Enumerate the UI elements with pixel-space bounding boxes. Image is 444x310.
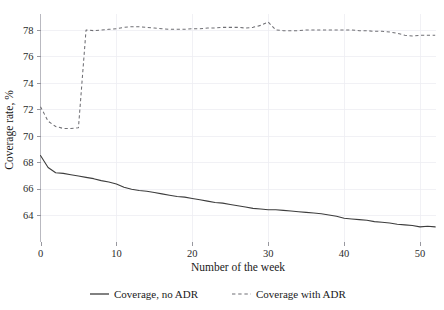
x-tick-label-0: 0: [38, 248, 43, 259]
x-tick-label-50: 50: [415, 248, 426, 259]
legend-label-coverage-with-adr: Coverage with ADR: [256, 288, 346, 300]
x-axis-label: Number of the week: [191, 261, 285, 273]
x-tick-label-10: 10: [111, 248, 122, 259]
y-axis-label: Coverage rate, %: [3, 90, 16, 170]
chart-figure: 6466687072747678 01020304050 Number of t…: [0, 0, 444, 310]
y-tick-label-78: 78: [23, 25, 34, 36]
x-tick-label-20: 20: [187, 248, 198, 259]
y-tick-label-72: 72: [23, 104, 34, 115]
y-tick-label-66: 66: [23, 183, 34, 194]
legend-label-coverage-no-adr: Coverage, no ADR: [114, 288, 199, 300]
y-tick-label-76: 76: [23, 51, 34, 62]
y-tick-label-74: 74: [23, 78, 34, 89]
x-tick-label-30: 30: [263, 248, 274, 259]
y-tick-label-70: 70: [23, 131, 34, 142]
y-tick-label-68: 68: [23, 157, 34, 168]
coverage-rate-line-chart: 6466687072747678 01020304050 Number of t…: [0, 0, 444, 310]
x-tick-label-40: 40: [339, 248, 350, 259]
y-tick-label-64: 64: [23, 210, 34, 221]
